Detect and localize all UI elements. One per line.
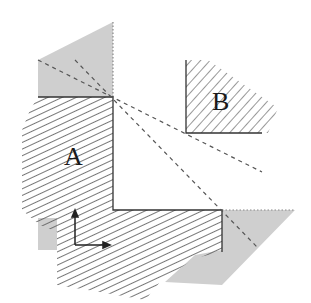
label-region-a: A [64,142,83,171]
shadow-region-top [38,22,113,97]
label-region-b: B [212,87,229,116]
region-b [186,60,278,133]
visibility-diagram: A B [0,0,311,303]
